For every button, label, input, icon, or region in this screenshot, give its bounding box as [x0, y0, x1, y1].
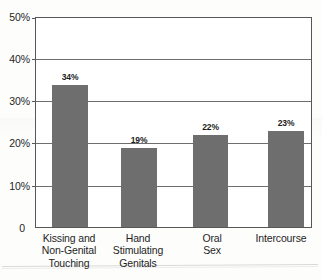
y-axis-tick-label: 0 [0, 222, 25, 234]
category-line: Hand [100, 232, 176, 244]
y-axis-tick-label: 30% [0, 95, 30, 107]
category-line: Non-Genital [29, 244, 109, 256]
category-line: Intercourse [240, 232, 322, 244]
bar-value-label: 34% [52, 72, 88, 82]
y-axis-tick-label: 20% [0, 137, 30, 149]
y-tick-mark [32, 101, 36, 102]
category-line: Sex [174, 244, 250, 256]
bar-value-label: 23% [268, 118, 304, 128]
y-tick-mark [32, 143, 36, 144]
bar-oral-sex[interactable] [193, 135, 228, 227]
bar-value-label: 22% [193, 122, 228, 132]
y-tick-mark [32, 18, 36, 19]
bar-intercourse[interactable] [268, 131, 304, 227]
x-axis-category-label-kissing: Kissing and Non-Genital Touching [29, 232, 109, 269]
x-axis-category-label-intercourse: Intercourse [240, 232, 322, 244]
bar-hand-stimulating-genitals[interactable] [121, 148, 157, 227]
bar-kissing-and-non-genital-touching[interactable] [52, 85, 88, 227]
x-axis-category-label-hand-stimulating: Hand Stimulating Genitals [100, 232, 176, 269]
y-axis-tick-label: 10% [0, 180, 30, 192]
category-line: Oral [174, 232, 250, 244]
y-tick-mark [32, 186, 36, 187]
chart-plot-area: 34% 19% 22% 23% [35, 17, 312, 228]
category-line: Touching [29, 257, 109, 269]
scanned-page-background: 50% 40% 30% 20% 10% 0 34% 19% 22% 23% Ki… [0, 0, 322, 280]
y-axis-tick-label: 50% [0, 11, 30, 23]
category-line: Stimulating [100, 244, 176, 256]
gridline-40 [36, 59, 311, 60]
category-line: Genitals [100, 257, 176, 269]
x-axis-category-label-oral-sex: Oral Sex [174, 232, 250, 257]
y-tick-mark [32, 59, 36, 60]
category-line: Kissing and [29, 232, 109, 244]
bar-value-label: 19% [121, 135, 157, 145]
y-axis-tick-label: 40% [0, 53, 30, 65]
